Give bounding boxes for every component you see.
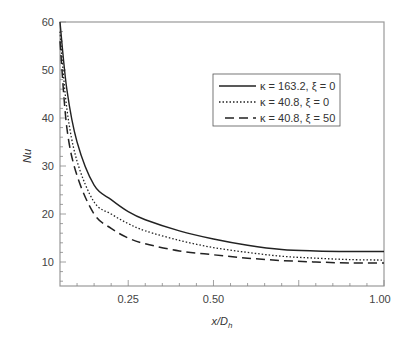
- y-tick-label: 50: [42, 64, 54, 76]
- line-chart: 102030405060 0.250.501.00 κ = 163.2, ξ =…: [0, 0, 414, 341]
- plot-border: [60, 22, 384, 286]
- x-axis-title: x/Dh: [211, 315, 234, 330]
- y-axis: 102030405060: [42, 16, 66, 281]
- series-line-dotted: [60, 32, 384, 260]
- y-tick-label: 10: [42, 256, 54, 268]
- x-axis-title-sub: h: [228, 321, 233, 330]
- x-tick-label: 1.00: [369, 293, 390, 305]
- x-tick-label: 0.50: [203, 293, 224, 305]
- x-axis: 0.250.501.00: [77, 280, 391, 305]
- y-tick-label: 20: [42, 208, 54, 220]
- plot-area: [60, 22, 384, 286]
- series-lines: [60, 22, 384, 263]
- y-tick-label: 30: [42, 160, 54, 172]
- y-axis-title: Nu: [21, 149, 33, 163]
- series-line-solid: [60, 22, 384, 251]
- legend-label: κ = 40.8, ξ = 0: [260, 96, 329, 108]
- y-tick-label: 60: [42, 16, 54, 28]
- x-axis-title-main: x/D: [211, 315, 229, 327]
- legend-label: κ = 40.8, ξ = 50: [260, 112, 335, 124]
- legend-label: κ = 163.2, ξ = 0: [260, 80, 335, 92]
- x-tick-label: 0.25: [117, 293, 138, 305]
- legend: κ = 163.2, ξ = 0κ = 40.8, ξ = 0κ = 40.8,…: [213, 74, 340, 126]
- y-tick-label: 40: [42, 112, 54, 124]
